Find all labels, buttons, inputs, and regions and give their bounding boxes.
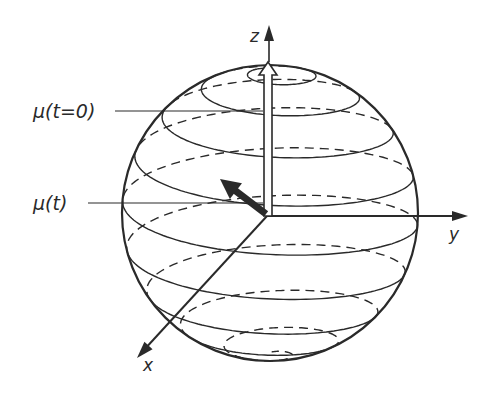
z-arrowhead-icon [264, 25, 274, 41]
mu-current-vector-shaft [231, 187, 266, 214]
z-axis-label: z [249, 26, 260, 46]
y-arrowhead-icon [452, 211, 468, 221]
precession-sphere-diagram: μ(t=0) μ(t) z y x [0, 0, 491, 395]
mu-initial-label: μ(t=0) [32, 100, 95, 122]
x-axis-label: x [142, 355, 154, 375]
y-axis-label: y [448, 224, 460, 244]
mu-current-label: μ(t) [32, 192, 67, 214]
mu-initial-vector-open-arrow [259, 62, 277, 216]
x-axis [143, 216, 267, 351]
